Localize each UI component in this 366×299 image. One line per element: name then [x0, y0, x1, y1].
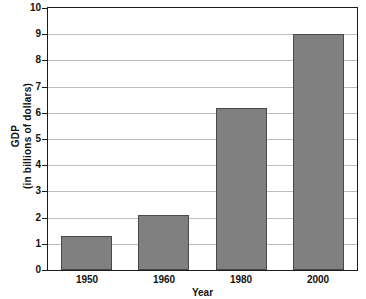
- y-axis-tick-mark: [42, 244, 47, 245]
- y-axis-tick-label: 4: [26, 160, 41, 170]
- y-axis-tick-mark: [42, 113, 47, 114]
- y-axis-tick-label: 5: [26, 134, 41, 144]
- x-axis-title: Year: [47, 287, 358, 298]
- y-axis-tick-mark: [42, 270, 47, 271]
- x-axis-tick-label: 1950: [76, 274, 98, 286]
- x-axis-tick-label: 1960: [153, 274, 175, 286]
- y-axis-tick-mark: [42, 218, 47, 219]
- y-axis-tick-mark: [42, 60, 47, 61]
- y-axis-tick-mark: [42, 191, 47, 192]
- bar-1980: [216, 108, 267, 270]
- y-axis-tick-mark: [42, 165, 47, 166]
- y-axis-tick-mark: [42, 8, 47, 9]
- y-axis-tick-label: 7: [26, 82, 41, 92]
- y-axis-tick-mark: [42, 139, 47, 140]
- y-axis-tick-label: 2: [26, 213, 41, 223]
- y-axis-tick-label: 3: [26, 186, 41, 196]
- bar-1950: [61, 236, 112, 270]
- x-axis-tick-label: 2000: [307, 274, 329, 286]
- x-axis-tick-labels: 1950196019802000: [47, 274, 358, 288]
- y-axis-tick-label: 8: [26, 55, 41, 65]
- bar-2000: [293, 34, 344, 270]
- y-axis-tick-label: 1: [26, 239, 41, 249]
- y-axis-tick-label: 6: [26, 108, 41, 118]
- bar-1960: [138, 215, 189, 270]
- y-axis-tick-mark: [42, 34, 47, 35]
- x-axis-tick-label: 1980: [230, 274, 252, 286]
- y-axis-tick-label: 10: [26, 3, 41, 13]
- y-axis-tick-mark: [42, 87, 47, 88]
- y-axis-title-line1: GDP: [10, 83, 22, 189]
- y-axis-tick-labels: 012345678910: [26, 0, 41, 299]
- y-axis-tick-label: 9: [26, 29, 41, 39]
- bars-layer: [48, 8, 357, 270]
- plot-area: [47, 7, 358, 271]
- y-axis-tick-label: 0: [26, 265, 41, 275]
- bar-chart: GDP (in billions of dollars) 01234567891…: [0, 0, 366, 299]
